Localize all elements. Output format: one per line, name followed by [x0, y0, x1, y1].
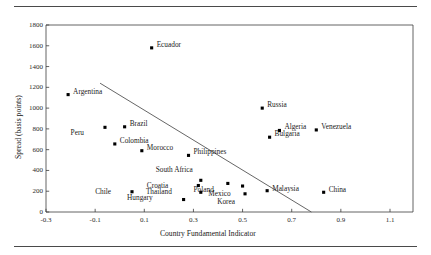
y-tick-label: 1400 [18, 63, 43, 71]
data-point-label: Peru [71, 129, 84, 137]
data-point-label: Bulgaria [275, 130, 300, 138]
x-tick-label: -0.1 [84, 216, 106, 224]
data-marker [322, 191, 325, 194]
x-tick-label: 0.1 [133, 216, 155, 224]
data-marker [140, 149, 143, 152]
y-axis-title: Spread (basis points) [14, 95, 23, 159]
data-point-label: Venezuela [321, 123, 351, 131]
data-marker [150, 46, 153, 49]
data-point-label: China [329, 186, 346, 194]
scatter-plot-svg [0, 0, 431, 255]
data-marker [182, 198, 185, 201]
data-marker [261, 107, 264, 110]
x-tick-label: 0.5 [232, 216, 254, 224]
data-point-label: Russia [267, 101, 286, 109]
x-tick-label: 0.7 [281, 216, 303, 224]
y-tick-label: 400 [18, 166, 43, 174]
data-marker [113, 142, 116, 145]
data-point-label: Hungary [127, 194, 153, 202]
data-marker [226, 182, 229, 185]
x-axis-title: Country Fundamental Indicator [160, 229, 256, 238]
y-tick-label: 1600 [18, 42, 43, 50]
figure-container: ArgentinaEcuadorRussiaBrazilPeruVenezuel… [0, 0, 431, 255]
x-tick-label: 0.3 [182, 216, 204, 224]
data-point-label: Ecuador [157, 41, 181, 49]
data-point-label: Colombia [120, 137, 149, 145]
data-marker [187, 154, 190, 157]
data-marker [241, 184, 244, 187]
data-point-label: Morocco [147, 144, 173, 152]
data-marker [268, 136, 271, 139]
x-tick-label: -0.3 [35, 216, 57, 224]
data-marker [67, 93, 70, 96]
data-point-label: Argentina [73, 88, 102, 96]
data-marker [103, 126, 106, 129]
data-marker [266, 189, 269, 192]
y-tick-label: 1800 [18, 21, 43, 29]
data-point-label: Korea [217, 198, 235, 206]
data-marker [199, 179, 202, 182]
data-point-label: Chile [95, 188, 111, 196]
data-point-label: Malaysia [272, 185, 299, 193]
data-marker [123, 125, 126, 128]
x-tick-label: 0.9 [330, 216, 352, 224]
y-tick-label: 1200 [18, 83, 43, 91]
x-tick-label: 1.1 [379, 216, 401, 224]
data-point-label: Brazil [130, 120, 148, 128]
data-point-label: South Africa [156, 166, 193, 174]
y-tick-label: 0 [18, 208, 43, 216]
data-marker [315, 128, 318, 131]
plot-frame [46, 25, 413, 212]
data-point-label: Philippines [194, 148, 227, 156]
y-tick-label: 200 [18, 187, 43, 195]
axis-tick-marks [46, 25, 390, 212]
data-marker [243, 192, 246, 195]
